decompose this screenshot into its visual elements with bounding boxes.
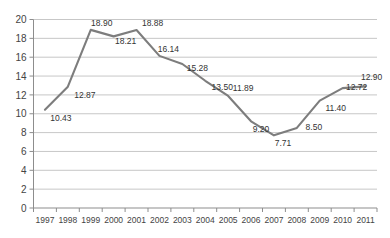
y-tick-label: 18 xyxy=(15,33,27,44)
y-tick-label: 20 xyxy=(15,14,27,25)
x-tick-label: 1997 xyxy=(35,215,54,225)
data-point-label: 9.20 xyxy=(253,124,270,134)
x-axis-tick-labels: 1997199819992000200120022003200420052006… xyxy=(35,215,374,225)
line-chart: 02468101214161820 1997199819992000200120… xyxy=(0,0,390,238)
y-tick-label: 0 xyxy=(21,203,27,214)
y-axis-tick-labels: 02468101214161820 xyxy=(15,14,27,214)
x-tick-label: 2006 xyxy=(242,215,261,225)
x-tick-label: 2009 xyxy=(310,215,329,225)
data-point-label: 18.90 xyxy=(91,18,113,28)
data-point-label: 12.87 xyxy=(74,90,96,100)
x-tick-label: 2000 xyxy=(104,215,123,225)
x-tick-label: 2003 xyxy=(173,215,192,225)
data-point-label: 13.50 xyxy=(212,82,234,92)
x-tick-label: 1998 xyxy=(58,215,77,225)
x-tick-label: 2011 xyxy=(356,215,375,225)
data-point-label: 10.43 xyxy=(50,113,72,123)
data-point-label: 11.89 xyxy=(233,83,254,93)
y-axis-ticks xyxy=(30,20,34,209)
y-tick-label: 2 xyxy=(21,184,27,195)
data-point-label: 12.90 xyxy=(361,72,383,82)
data-point-label: 15.28 xyxy=(187,63,209,73)
y-tick-label: 12 xyxy=(15,90,27,101)
data-point-label: 8.50 xyxy=(306,122,323,132)
x-axis-ticks xyxy=(34,208,378,212)
data-point-label: 18.21 xyxy=(115,36,137,46)
data-point-label: 18.88 xyxy=(142,18,164,28)
y-tick-label: 4 xyxy=(21,165,27,176)
x-tick-label: 2004 xyxy=(196,215,215,225)
data-point-labels: 10.4312.8718.9018.2118.8816.1415.2813.50… xyxy=(50,18,382,148)
data-point-label: 16.14 xyxy=(158,44,180,54)
x-tick-label: 2007 xyxy=(264,215,283,225)
data-point-label: 7.71 xyxy=(275,138,292,148)
data-point-label: 11.40 xyxy=(325,103,346,113)
y-tick-label: 6 xyxy=(21,146,27,157)
x-tick-label: 2002 xyxy=(150,215,169,225)
x-tick-label: 1999 xyxy=(81,215,100,225)
chart-canvas: 02468101214161820 1997199819992000200120… xyxy=(0,0,390,238)
y-tick-label: 14 xyxy=(15,71,27,82)
y-tick-label: 10 xyxy=(15,108,27,119)
y-tick-label: 16 xyxy=(15,52,27,63)
series-line-path xyxy=(45,30,366,135)
y-tick-label: 8 xyxy=(21,127,27,138)
x-tick-label: 2008 xyxy=(287,215,306,225)
x-tick-label: 2005 xyxy=(219,215,238,225)
x-tick-label: 2010 xyxy=(333,215,352,225)
data-point-label: 12.72 xyxy=(346,82,368,92)
x-tick-label: 2001 xyxy=(127,215,146,225)
